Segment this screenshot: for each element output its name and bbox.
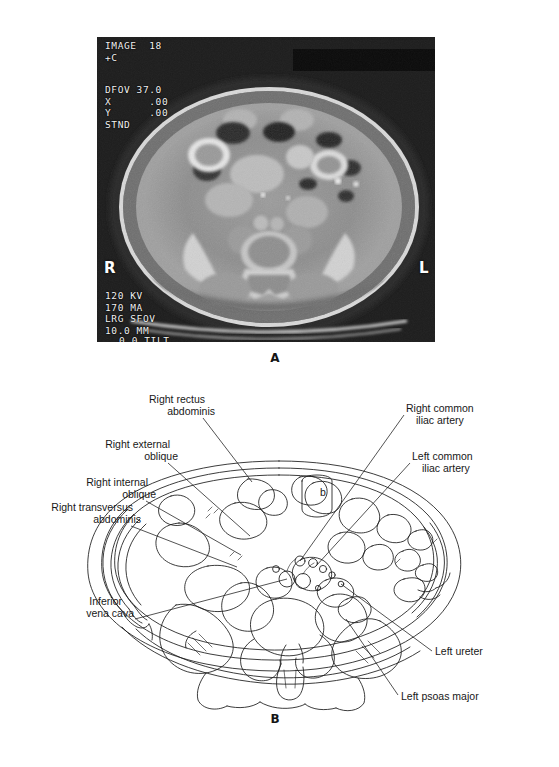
vertebral-body xyxy=(250,598,323,664)
ct-osd-gantry-tilt: 0.0 TILT xyxy=(119,335,170,342)
panel-a-ct-scan: IMAGE 18 +C DFOV 37.0 X .00 Y .00 STND 1… xyxy=(97,37,435,342)
ct-osd-dfov: DFOV 37.0 xyxy=(105,84,162,95)
leader-right-rectus-abdominis xyxy=(203,418,252,482)
label-left-common-iliac-artery-line2: iliac artery xyxy=(422,462,471,474)
ct-osd-technique: 120 KV 170 MA LRG SFOV 10.0 MM xyxy=(105,290,156,336)
leader-left-psoas-major xyxy=(346,619,398,695)
ct-osd-header: IMAGE 18 +C xyxy=(105,40,162,63)
label-left-psoas-major: Left psoas major xyxy=(401,690,479,702)
label-right-internal-oblique-line1: Right internal xyxy=(86,476,148,488)
label-right-rectus-abdominis-line2: abdominis xyxy=(167,405,215,417)
label-right-external-oblique-line2: oblique xyxy=(144,450,178,462)
label-right-common-iliac-artery-line2: iliac artery xyxy=(416,414,465,426)
leader-right-internal-oblique xyxy=(146,501,241,555)
ct-orientation-marker-right: R xyxy=(104,259,116,277)
ct-osd-slice-thickness: 10.0 MM xyxy=(105,325,149,336)
ct-orientation-marker-left: L xyxy=(419,259,429,277)
bladder-mark-label: b xyxy=(320,486,326,498)
label-inferior-vena-cava-line2: vena cava xyxy=(86,607,134,619)
ct-osd-ma: 170 MA xyxy=(105,302,143,313)
posterior-vertebral-elements xyxy=(241,635,335,700)
psoas-major-muscles xyxy=(222,583,367,643)
ct-scan-image: IMAGE 18 +C DFOV 37.0 X .00 Y .00 STND 1… xyxy=(97,37,435,342)
panel-b-line-diagram: b xyxy=(0,383,559,713)
ct-osd-kv: 120 KV xyxy=(105,290,143,301)
label-right-transversus-abdominis-line1: Right transversus xyxy=(51,501,133,513)
ct-osd-acquisition: DFOV 37.0 X .00 Y .00 STND xyxy=(105,84,168,130)
label-right-common-iliac-artery-line1: Right common xyxy=(406,402,474,414)
panel-a-letter: A xyxy=(255,351,295,365)
label-right-rectus-abdominis-line1: Right rectus xyxy=(149,393,205,405)
label-right-external-oblique-line1: Right external xyxy=(105,438,170,450)
ct-osd-contrast: +C xyxy=(105,52,118,63)
ct-osd-image-line: IMAGE 18 xyxy=(105,40,162,51)
ct-osd-sfov: LRG SFOV xyxy=(105,313,156,324)
great-vessels-cluster xyxy=(273,556,344,591)
ct-osd-algorithm: STND xyxy=(105,119,130,130)
ct-osd-x-offset: X .00 xyxy=(105,96,168,107)
label-inferior-vena-cava-line1: Inferior xyxy=(89,595,122,607)
label-left-common-iliac-artery-line1: Left common xyxy=(412,450,473,462)
leader-right-transversus-abdominis xyxy=(131,526,237,567)
label-right-internal-oblique-line2: oblique xyxy=(122,488,156,500)
panel-b-letter: B xyxy=(255,712,295,726)
left-abdominal-wall-detail xyxy=(412,523,450,617)
ct-osd-y-offset: Y .00 xyxy=(105,107,168,118)
label-right-transversus-abdominis-line2: abdominis xyxy=(93,513,141,525)
label-left-ureter: Left ureter xyxy=(435,645,483,657)
anatomy-diagram-graphic: b xyxy=(0,383,559,713)
